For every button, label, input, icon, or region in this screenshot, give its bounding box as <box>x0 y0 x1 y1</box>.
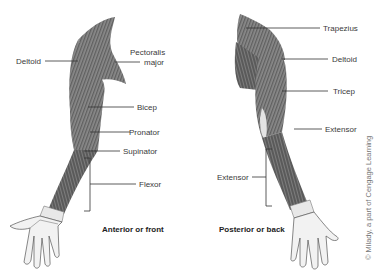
label-supinator: Supinator <box>123 147 157 156</box>
label-deltoid-posterior: Deltoid <box>332 55 357 64</box>
label-tricep: Tricep <box>333 87 355 96</box>
arm-illustration <box>0 0 378 276</box>
label-extensor-lower: Extensor <box>217 173 249 182</box>
label-pectoralis-major: major <box>144 58 164 67</box>
copyright-credit: © Milady, a part of Cengage Learning <box>364 136 373 260</box>
label-flexor: Flexor <box>139 180 161 189</box>
label-extensor-upper: Extensor <box>325 125 357 134</box>
label-deltoid-anterior: Deltoid <box>16 57 41 66</box>
label-pronator: Pronator <box>129 128 160 137</box>
label-bicep: Bicep <box>137 103 157 112</box>
caption-posterior: Posterior or back <box>219 225 285 234</box>
label-trapezius: Trapezius <box>323 24 358 33</box>
caption-anterior: Anterior or front <box>102 225 164 234</box>
label-pectoralis: Pectoralis <box>130 48 165 57</box>
